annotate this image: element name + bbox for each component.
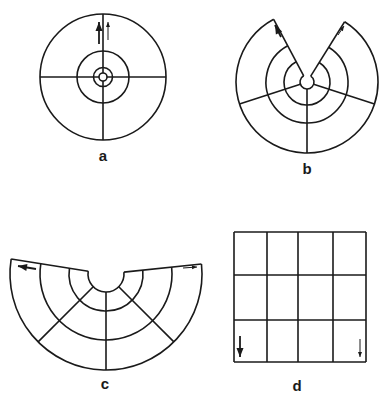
arrow-head-icon: [192, 265, 197, 269]
arrow-head-icon: [96, 22, 103, 31]
ring-arc: [300, 76, 314, 89]
arrow-head-icon: [358, 352, 362, 357]
diagram-canvas: [0, 0, 379, 397]
panel-d-grid: [234, 232, 366, 362]
panel-label-d: d: [292, 378, 301, 393]
cut-edge: [311, 22, 345, 76]
panel-b-cut-sector: [236, 19, 378, 153]
panel-a-full-circle: [40, 14, 166, 140]
radial-line: [119, 287, 174, 342]
panel-label-c: c: [101, 376, 109, 391]
radial-line: [38, 287, 93, 342]
arrow-head-icon: [106, 22, 110, 27]
arrow-head-icon: [18, 264, 27, 271]
ring: [99, 73, 107, 81]
panel-label-b: b: [302, 161, 311, 176]
panel-label-a: a: [99, 148, 107, 163]
fan-edge: [124, 264, 202, 272]
ring-arc: [88, 271, 124, 292]
arrow-head-icon: [237, 348, 244, 357]
panel-c-semicircle-fan: [10, 259, 202, 370]
